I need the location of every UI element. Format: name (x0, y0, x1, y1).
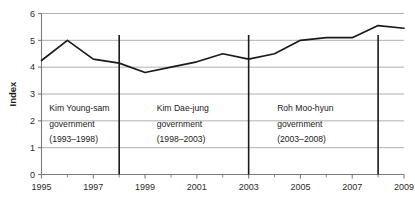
y-tick-label-4: 4 (30, 62, 35, 72)
x-tick-label-1997: 1997 (83, 182, 103, 192)
x-tick-label-2003: 2003 (239, 182, 259, 192)
annotation-kim-young-sam-line-1: Kim Young-sam (49, 103, 109, 113)
x-tick-label-1995: 1995 (31, 182, 51, 192)
annotation-roh-moo-hyun-line-2: government (277, 119, 323, 129)
annotation-roh-moo-hyun-line-3: (2003–2008) (277, 134, 326, 144)
annotation-kim-dae-jung-line-3: (1998–2003) (157, 134, 206, 144)
x-tick-label-2005: 2005 (290, 182, 310, 192)
y-tick-label-6: 6 (30, 9, 35, 19)
x-tick-label-2007: 2007 (342, 182, 362, 192)
line-chart: 0123456 19951997199920012003200520072009… (0, 0, 415, 206)
y-tick-label-2: 2 (30, 116, 35, 126)
period-annotations: Kim Young-samgovernment(1993–1998)Kim Da… (49, 103, 333, 143)
y-tick-label-3: 3 (30, 89, 35, 99)
x-tick-label-1999: 1999 (135, 182, 155, 192)
annotation-kim-dae-jung-line-2: government (157, 119, 203, 129)
annotation-kim-young-sam-line-3: (1993–1998) (49, 134, 98, 144)
annotation-roh-moo-hyun-line-1: Roh Moo-hyun (277, 103, 334, 113)
y-tick-label-0: 0 (30, 170, 35, 180)
annotation-kim-dae-jung-line-1: Kim Dae-jung (157, 103, 209, 113)
y-tick-label-5: 5 (30, 36, 35, 46)
annotation-kim-dae-jung: Kim Dae-junggovernment(1998–2003) (157, 103, 209, 143)
x-tick-label-2001: 2001 (187, 182, 207, 192)
annotation-kim-young-sam-line-2: government (49, 119, 95, 129)
y-tick-label-1: 1 (30, 143, 35, 153)
chart-container: 0123456 19951997199920012003200520072009… (0, 0, 415, 206)
x-tick-label-2009: 2009 (394, 182, 414, 192)
y-axis-label: Index (7, 81, 18, 107)
